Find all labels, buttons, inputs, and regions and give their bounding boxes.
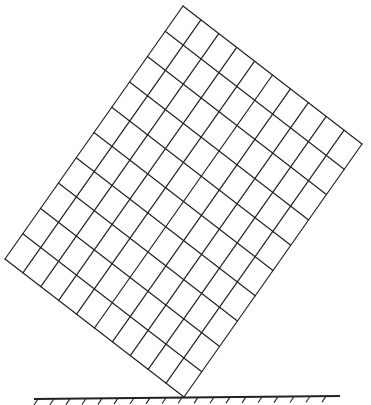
grid-line — [5, 259, 184, 397]
grid-line — [130, 82, 309, 220]
ground-line — [34, 396, 340, 405]
grid-line — [41, 208, 220, 346]
ground-surface — [34, 396, 340, 399]
grid-line — [58, 183, 237, 321]
tilted-grid — [5, 6, 362, 397]
grid-line — [94, 133, 273, 271]
grid-line — [76, 158, 255, 296]
grid-line — [112, 107, 291, 245]
grid-line — [147, 57, 326, 195]
grid-line — [183, 6, 362, 144]
grid-line — [23, 234, 202, 372]
tilted-grid-diagram — [0, 0, 371, 405]
grid-line — [165, 31, 344, 169]
